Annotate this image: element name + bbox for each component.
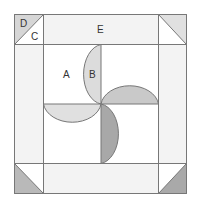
quilt-block-diagram: D C E A B — [0, 0, 197, 204]
label-a: A — [63, 69, 70, 80]
label-b: B — [89, 69, 96, 80]
label-d: D — [20, 18, 27, 29]
corner-bottom-right — [159, 164, 187, 194]
label-c: C — [31, 31, 38, 42]
corner-top-left — [15, 15, 44, 45]
corner-top-right — [159, 15, 187, 45]
diagram-canvas: D C E A B — [0, 0, 197, 204]
label-e: E — [97, 24, 104, 35]
corner-bottom-left — [15, 164, 44, 194]
